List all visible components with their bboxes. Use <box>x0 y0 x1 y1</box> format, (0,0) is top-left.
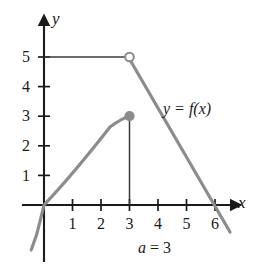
x-tick-label-3: 3 <box>121 216 139 232</box>
y-tick-label-2: 2 <box>14 138 30 154</box>
x-tick-label-6: 6 <box>206 216 224 232</box>
y-tick-label-1: 1 <box>14 168 30 184</box>
x-tick-label-5: 5 <box>178 216 196 232</box>
closed-point-marker <box>124 111 134 121</box>
function-graph-figure: y x 5 4 3 2 1 1 2 3 4 5 6 y = f(x) a = 3 <box>0 0 256 267</box>
x-tick-label-4: 4 <box>149 216 167 232</box>
x-tick-label-1: 1 <box>64 216 82 232</box>
open-point-marker <box>125 53 134 62</box>
y-tick-label-5: 5 <box>14 49 30 65</box>
y-tick-label-3: 3 <box>14 108 30 124</box>
parameter-annotation: a = 3 <box>138 240 171 256</box>
y-axis-label: y <box>52 10 60 27</box>
curve-equation-label: y = f(x) <box>163 101 211 117</box>
parameter-equals-sign: = <box>150 239 159 256</box>
parameter-value: 3 <box>163 239 171 256</box>
x-axis-label: x <box>238 194 246 211</box>
y-tick-label-4: 4 <box>14 79 30 95</box>
x-tick-label-2: 2 <box>92 216 110 232</box>
parameter-variable: a <box>138 239 146 256</box>
